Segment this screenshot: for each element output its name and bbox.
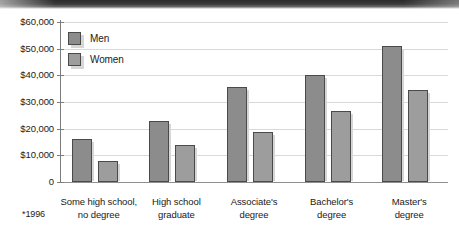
bar-men xyxy=(382,46,402,182)
bar-group xyxy=(138,22,216,182)
legend-label-men: Men xyxy=(90,33,109,44)
y-tick-mark xyxy=(57,102,64,103)
bar-women xyxy=(331,111,351,182)
y-tick-mark xyxy=(57,49,64,50)
y-tick-mark xyxy=(57,129,64,130)
y-tick-mark xyxy=(57,155,64,156)
legend-item-women: Women xyxy=(68,49,124,70)
bar-group xyxy=(215,22,293,182)
bar-group xyxy=(293,22,371,182)
y-tick-label: $10,000 xyxy=(20,150,54,160)
footnote-year: *1996 xyxy=(22,209,45,219)
y-tick-label: 0 xyxy=(49,177,54,187)
y-tick-mark xyxy=(57,182,64,183)
x-tick-label-line: degree xyxy=(361,209,457,222)
legend-swatch-men-icon xyxy=(68,32,81,45)
y-tick-label: $60,000 xyxy=(20,17,54,27)
x-axis-labels: Some high school,no degreeHigh schoolgra… xyxy=(0,196,459,236)
y-tick-mark xyxy=(57,22,64,23)
bar-men xyxy=(305,75,325,182)
x-tick-label: Master'sdegree xyxy=(361,196,457,221)
x-axis-baseline xyxy=(60,182,448,183)
chart-legend: Men Women xyxy=(68,28,124,70)
x-tick-label-line: Master's xyxy=(361,196,457,209)
legend-swatch-women-icon xyxy=(68,53,81,66)
legend-label-women: Women xyxy=(90,54,124,65)
bar-chart: $60,000$50,000$40,000$30,000$20,000$10,0… xyxy=(0,0,459,243)
bar-men xyxy=(72,139,92,182)
y-tick-label: $30,000 xyxy=(20,97,54,107)
bar-group xyxy=(370,22,448,182)
bar-women xyxy=(175,145,195,182)
y-tick-label: $20,000 xyxy=(20,124,54,134)
y-tick-label: $40,000 xyxy=(20,70,54,80)
bar-men xyxy=(227,87,247,182)
bar-women xyxy=(98,161,118,182)
bar-men xyxy=(149,121,169,182)
bar-women xyxy=(408,90,428,182)
y-tick-mark xyxy=(57,75,64,76)
y-tick-label: $50,000 xyxy=(20,44,54,54)
bar-women xyxy=(253,132,273,182)
legend-item-men: Men xyxy=(68,28,124,49)
